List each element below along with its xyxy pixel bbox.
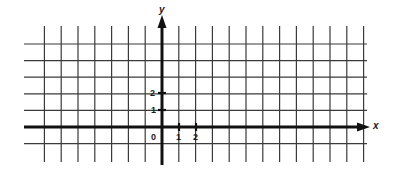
origin-label: 0 (151, 132, 156, 142)
x-axis-label: x (372, 120, 379, 131)
coordinate-plane: x y 0 1 2 1 2 (0, 0, 397, 176)
y-axis-arrow-icon (158, 15, 167, 28)
y-tick-label-1: 1 (151, 105, 156, 115)
y-axis-label: y (158, 4, 165, 15)
axis-ticks (158, 93, 196, 131)
y-tick-label-2: 2 (150, 88, 155, 98)
x-tick-label-1: 1 (176, 132, 181, 142)
x-tick-label-2: 2 (193, 132, 198, 142)
